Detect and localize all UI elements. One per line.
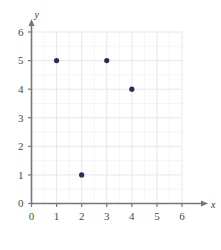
data-point bbox=[104, 58, 109, 63]
y-tick-label: 2 bbox=[18, 140, 24, 152]
x-tick-label: 3 bbox=[104, 210, 110, 222]
y-tick-label: 0 bbox=[18, 197, 24, 209]
x-axis-label: x bbox=[210, 199, 216, 210]
axis-lines bbox=[29, 19, 209, 207]
x-axis-arrow-icon bbox=[201, 201, 208, 207]
y-tick-label: 4 bbox=[18, 83, 24, 95]
y-tick-label: 5 bbox=[18, 54, 24, 66]
y-axis-label: y bbox=[34, 9, 40, 20]
y-tick-label: 6 bbox=[18, 26, 24, 38]
x-tick-label: 6 bbox=[179, 210, 185, 222]
data-point bbox=[129, 87, 134, 92]
y-axis-arrow-icon bbox=[29, 19, 35, 26]
x-tick-label: 2 bbox=[79, 210, 85, 222]
data-point bbox=[54, 58, 59, 63]
x-axis-tick-labels: 0123456 bbox=[29, 210, 186, 222]
x-tick-label: 5 bbox=[154, 210, 160, 222]
y-tick-label: 3 bbox=[18, 112, 24, 124]
data-point bbox=[79, 172, 84, 177]
x-tick-label: 0 bbox=[29, 210, 35, 222]
major-gridlines bbox=[32, 32, 183, 204]
plot-canvas: 0123456 0123456 y x bbox=[0, 0, 221, 250]
y-axis-tick-labels: 0123456 bbox=[18, 26, 24, 210]
x-tick-label: 4 bbox=[129, 210, 135, 222]
y-tick-label: 1 bbox=[18, 169, 24, 181]
scatter-plot-figure: 0123456 0123456 y x bbox=[0, 0, 221, 250]
x-tick-label: 1 bbox=[54, 210, 60, 222]
